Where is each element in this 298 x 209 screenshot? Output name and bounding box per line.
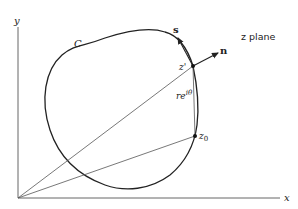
segment-label-base: re (176, 91, 186, 101)
complex-plane-diagram: y x C z plane s n z' reiθ z0 (0, 0, 298, 209)
ray-to-z-prime (18, 66, 193, 198)
contour-c (45, 30, 198, 189)
tangent-label: s (173, 24, 179, 35)
normal-label: n (220, 45, 228, 56)
y-axis-label: y (13, 15, 20, 26)
point-z0 (193, 134, 197, 138)
x-axis-label: x (284, 192, 290, 203)
ray-to-z0 (18, 136, 195, 198)
z0-label-subscript: 0 (204, 135, 208, 143)
segment-label: reiθ (176, 89, 193, 101)
contour-label: C (74, 38, 82, 49)
normal-vector-n (193, 53, 218, 66)
plane-label: z plane (241, 31, 276, 42)
point-z-prime (191, 64, 195, 68)
segment-label-exponent: iθ (186, 89, 193, 97)
z-prime-label: z' (178, 62, 186, 72)
z0-label: z0 (198, 131, 208, 143)
